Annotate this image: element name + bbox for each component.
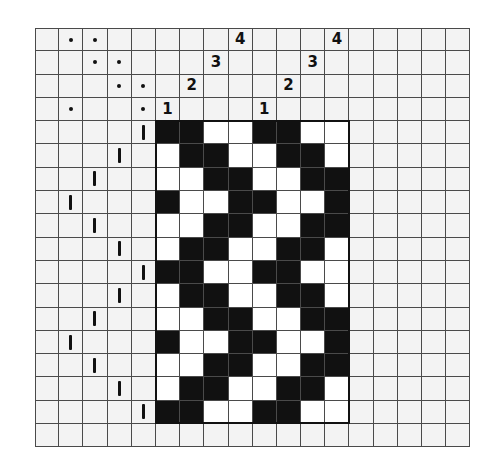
drawdown-cell	[204, 121, 228, 144]
treadling-cell	[83, 121, 107, 144]
treadling-cell	[132, 214, 156, 237]
grid-cell	[446, 331, 470, 354]
grid-cell	[422, 308, 446, 331]
tieup-dot-icon	[93, 38, 97, 42]
grid-cell	[446, 144, 470, 167]
grid-cell	[446, 75, 470, 98]
drawdown-cell	[204, 214, 228, 237]
treadling-cell	[83, 261, 107, 284]
tieup-dot-icon	[69, 38, 73, 42]
drawdown-cell	[301, 401, 325, 424]
treadling-cell	[132, 121, 156, 144]
treadling-cell	[108, 238, 132, 261]
drawdown-cell	[253, 191, 277, 214]
treadle-mark-icon	[142, 125, 145, 140]
threading-cell	[180, 51, 204, 74]
treadling-cell	[35, 214, 59, 237]
drawdown-cell	[204, 354, 228, 377]
treadling-cell	[132, 331, 156, 354]
grid-cell	[301, 424, 325, 447]
treadling-cell	[132, 308, 156, 331]
grid-cell	[374, 261, 398, 284]
grid-cell	[398, 28, 422, 51]
grid-cell	[349, 144, 373, 167]
threading-cell: 4	[325, 28, 349, 51]
threading-cell	[277, 28, 301, 51]
grid-cell	[422, 191, 446, 214]
tieup-cell	[35, 28, 59, 51]
treadling-cell	[108, 401, 132, 424]
drawdown-cell	[301, 354, 325, 377]
grid-cell	[374, 331, 398, 354]
drawdown-cell	[325, 261, 349, 284]
drawdown-cell	[301, 144, 325, 167]
drawdown-cell	[156, 238, 180, 261]
grid-cell	[374, 238, 398, 261]
treadling-cell	[132, 168, 156, 191]
threading-cell	[156, 75, 180, 98]
drawdown-cell	[204, 238, 228, 261]
threading-cell	[204, 75, 228, 98]
grid-cell	[398, 51, 422, 74]
threading-cell	[325, 51, 349, 74]
grid-cell	[398, 331, 422, 354]
drawdown-cell	[156, 168, 180, 191]
grid-cell	[398, 121, 422, 144]
grid-cell	[349, 168, 373, 191]
drawdown-cell	[156, 261, 180, 284]
treadling-cell	[132, 401, 156, 424]
grid-cell	[349, 331, 373, 354]
grid-cell	[349, 308, 373, 331]
drawdown-cell	[277, 284, 301, 307]
drawdown-cell	[229, 331, 253, 354]
grid-cell	[446, 121, 470, 144]
drawdown-cell	[229, 121, 253, 144]
threading-cell	[325, 98, 349, 121]
drawdown-cell	[325, 284, 349, 307]
treadling-cell	[83, 377, 107, 400]
threading-cell	[253, 51, 277, 74]
grid-cell	[422, 75, 446, 98]
tieup-cell	[59, 28, 83, 51]
drawdown-cell	[204, 401, 228, 424]
threading-number: 4	[235, 32, 245, 47]
drawdown-cell	[229, 308, 253, 331]
grid-cell	[59, 424, 83, 447]
treadle-mark-icon	[69, 335, 72, 350]
treadling-cell	[132, 261, 156, 284]
grid-cell	[374, 28, 398, 51]
treadling-cell	[83, 331, 107, 354]
treadling-cell	[132, 377, 156, 400]
drawdown-cell	[204, 261, 228, 284]
tieup-cell	[83, 75, 107, 98]
grid-cell	[446, 238, 470, 261]
grid-cell	[446, 51, 470, 74]
tieup-dot-icon	[141, 107, 145, 111]
threading-cell: 3	[204, 51, 228, 74]
threading-number: 1	[162, 102, 172, 117]
threading-cell	[301, 98, 325, 121]
drawdown-cell	[277, 354, 301, 377]
grid-cell	[398, 261, 422, 284]
drawdown-cell	[253, 308, 277, 331]
treadling-cell	[132, 284, 156, 307]
drawdown-cell	[325, 377, 349, 400]
threading-cell	[229, 51, 253, 74]
drawdown-cell	[277, 331, 301, 354]
grid-cell	[83, 424, 107, 447]
grid-cell	[422, 238, 446, 261]
drawdown-cell	[180, 308, 204, 331]
treadling-cell	[108, 354, 132, 377]
drawdown-cell	[156, 354, 180, 377]
treadle-mark-icon	[142, 265, 145, 280]
treadling-cell	[108, 191, 132, 214]
grid-cell	[349, 238, 373, 261]
drawdown-cell	[277, 401, 301, 424]
treadling-cell	[59, 308, 83, 331]
grid-cell	[325, 424, 349, 447]
grid-cell	[374, 424, 398, 447]
threading-number: 3	[211, 55, 221, 70]
tieup-cell	[35, 98, 59, 121]
treadling-cell	[83, 168, 107, 191]
grid-cell	[422, 98, 446, 121]
